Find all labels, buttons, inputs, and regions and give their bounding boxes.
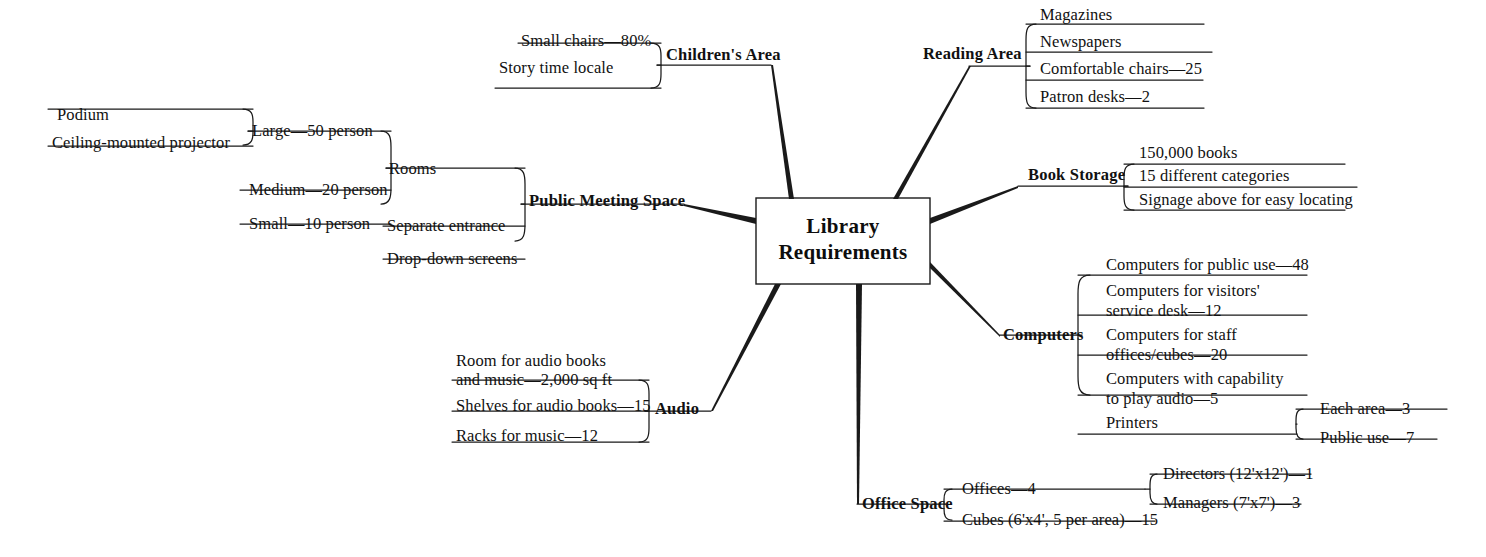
node-c-printers[interactable]: Printers — [1106, 413, 1158, 433]
node-a-shelves[interactable]: Shelves for audio books—15 — [456, 396, 651, 416]
node-pms-separate-entrance[interactable]: Separate entrance — [387, 216, 506, 236]
node-os-cubes[interactable]: Cubes (6'x4', 5 per area)—15 — [962, 510, 1158, 530]
branch-book-storage — [930, 186, 1018, 224]
node-ca-small-chairs[interactable]: Small chairs—80% — [521, 31, 651, 51]
node-ra-newspapers[interactable]: Newspapers — [1040, 32, 1122, 52]
node-childrens-area[interactable]: Children's Area — [666, 45, 781, 65]
node-c-public-use[interactable]: Computers for public use—48 — [1106, 255, 1309, 275]
center-node-line1: Library — [756, 213, 930, 239]
mind-map-canvas: Library Requirements Children's Area Sma… — [0, 0, 1486, 557]
node-office-space[interactable]: Office Space — [862, 494, 953, 514]
node-c-visitors-line2[interactable]: service desk—12 — [1106, 301, 1222, 321]
node-c-staff-line2[interactable]: offices/cubes—20 — [1106, 345, 1227, 365]
node-rooms-medium[interactable]: Medium—20 person — [249, 180, 388, 200]
node-os-offices[interactable]: Offices—4 — [962, 479, 1036, 499]
node-large-projector[interactable]: Ceiling-mounted projector — [52, 133, 230, 153]
node-p-public-use[interactable]: Public use—7 — [1320, 428, 1414, 448]
node-a-room-line2[interactable]: and music—2,000 sq ft — [456, 370, 612, 390]
node-rooms-small[interactable]: Small—10 person — [249, 214, 370, 234]
center-node-label: Library Requirements — [756, 213, 930, 265]
node-c-staff-line1[interactable]: Computers for staff — [1106, 325, 1237, 345]
node-pms-rooms[interactable]: Rooms — [389, 159, 436, 179]
node-o-managers[interactable]: Managers (7'x7')—3 — [1163, 493, 1300, 513]
center-node-line2: Requirements — [756, 239, 930, 265]
node-p-each-area[interactable]: Each area—3 — [1320, 399, 1410, 419]
node-c-audio-line2[interactable]: to play audio—5 — [1106, 389, 1218, 409]
node-computers[interactable]: Computers — [1003, 325, 1084, 345]
branch-reading-area — [893, 66, 971, 199]
node-bs-signage[interactable]: Signage above for easy locating — [1139, 190, 1353, 210]
node-bs-categories[interactable]: 15 different categories — [1139, 166, 1289, 186]
branch-childrens-area — [771, 65, 794, 199]
node-audio[interactable]: Audio — [655, 399, 699, 419]
node-pms-dropdown-screens[interactable]: Drop-down screens — [387, 249, 517, 269]
node-a-room-line1[interactable]: Room for audio books — [456, 351, 606, 371]
branch-public-meeting-space — [684, 204, 756, 224]
node-public-meeting-space[interactable]: Public Meeting Space — [529, 191, 685, 211]
node-o-directors[interactable]: Directors (12'x12')—1 — [1163, 464, 1314, 484]
node-ca-story-time[interactable]: Story time locale — [499, 58, 613, 78]
branch-office-space — [856, 284, 862, 504]
node-reading-area[interactable]: Reading Area — [923, 44, 1022, 64]
node-c-audio-line1[interactable]: Computers with capability — [1106, 369, 1284, 389]
node-bs-books[interactable]: 150,000 books — [1139, 143, 1237, 163]
node-large-podium[interactable]: Podium — [57, 105, 109, 125]
node-rooms-large[interactable]: Large—50 person — [252, 121, 373, 141]
branch-computers — [930, 262, 1000, 337]
branch-audio — [711, 284, 781, 411]
node-ra-patron-desks[interactable]: Patron desks—2 — [1040, 87, 1150, 107]
node-book-storage[interactable]: Book Storage — [1028, 165, 1125, 185]
node-c-visitors-line1[interactable]: Computers for visitors' — [1106, 281, 1260, 301]
node-a-racks[interactable]: Racks for music—12 — [456, 426, 598, 446]
node-ra-magazines[interactable]: Magazines — [1040, 5, 1112, 25]
node-ra-comfortable-chairs[interactable]: Comfortable chairs—25 — [1040, 59, 1202, 79]
